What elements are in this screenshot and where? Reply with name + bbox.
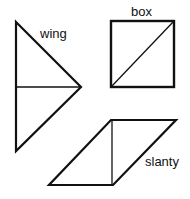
box-shape [111, 21, 174, 87]
wing-shape [16, 22, 81, 151]
slanty-label: slanty [145, 155, 179, 168]
slanty-shape [49, 120, 176, 185]
wing-label: wing [40, 27, 67, 40]
shapes-canvas [0, 0, 190, 199]
box-diagonal [111, 21, 174, 87]
box-label: box [131, 5, 152, 18]
